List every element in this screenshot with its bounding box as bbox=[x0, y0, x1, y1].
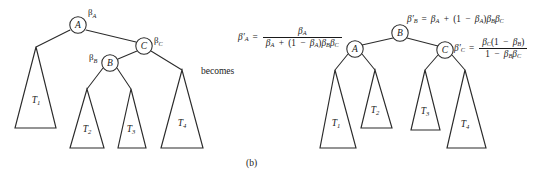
beta-c-prime-equation: β′C = βC(1 − βB) 1 − βBβC bbox=[454, 38, 528, 60]
tree-node-c-right-label: C bbox=[442, 45, 449, 55]
edge-a-to-t1-right bbox=[335, 54, 348, 70]
figure-panel-b: T1 T2 T3 T4 A βA C βC bbox=[0, 0, 552, 180]
beta-a-prime-lhs: β′A bbox=[238, 33, 249, 42]
edge-c-to-t4 bbox=[151, 51, 182, 70]
edge-a-to-c bbox=[86, 30, 136, 42]
beta-b-prime-lhs: β′B bbox=[407, 15, 418, 24]
edge-b-to-c-right bbox=[407, 38, 438, 46]
edge-c-to-t3-right bbox=[425, 55, 438, 70]
beta-b-prime-equation: β′B = βA + (1 − βA)βBβC bbox=[407, 15, 504, 24]
tree-node-a-left-label: A bbox=[74, 20, 81, 30]
subtree-triangle-t4-left bbox=[161, 70, 203, 148]
subtree-triangle-t2-left bbox=[70, 89, 104, 148]
subtree-triangle-t3-left bbox=[118, 89, 146, 148]
beta-a-prime-fraction: βA βA + (1 − βA)βBβC bbox=[263, 27, 342, 49]
tree-node-b-left-label: B bbox=[107, 58, 113, 68]
tree-node-c-left-label: C bbox=[141, 41, 148, 51]
tree-node-b-right-label: B bbox=[397, 28, 403, 38]
edge-b-to-t3 bbox=[117, 68, 131, 89]
subtree-triangle-t1-right bbox=[320, 70, 356, 148]
beta-c-prime-denominator: 1 − βBβC bbox=[482, 49, 524, 59]
beta-c-prime-lhs: β′C bbox=[454, 44, 465, 53]
beta-a-prime-denominator: βA + (1 − βA)βBβC bbox=[263, 38, 342, 48]
subtree-triangle-t3-right bbox=[411, 70, 440, 130]
edge-b-to-t2 bbox=[87, 68, 103, 89]
edge-c-to-b bbox=[118, 51, 137, 59]
equals-sign-b: = bbox=[422, 15, 427, 24]
subtree-triangle-t2-right bbox=[361, 70, 392, 128]
tree-node-a-right-label: A bbox=[351, 44, 358, 54]
edge-a-to-t1 bbox=[36, 30, 70, 47]
beta-b-label-left: βB bbox=[89, 52, 98, 64]
edge-b-to-a-right bbox=[362, 38, 393, 45]
subtree-triangle-t4-right bbox=[447, 70, 486, 148]
beta-c-prime-fraction: βC(1 − βB) 1 − βBβC bbox=[479, 38, 527, 60]
becomes-label: becomes bbox=[201, 66, 234, 76]
beta-a-label-left: βA bbox=[88, 7, 97, 19]
equals-sign-a: = bbox=[253, 33, 258, 42]
beta-c-prime-numerator: βC(1 − βB) bbox=[479, 38, 527, 48]
figure-caption: (b) bbox=[246, 158, 257, 168]
beta-a-prime-numerator: βA bbox=[295, 27, 310, 37]
beta-a-prime-equation: β′A = βA βA + (1 − βA)βBβC bbox=[238, 27, 343, 49]
equals-sign-c: = bbox=[469, 44, 474, 53]
subtree-triangle-t1-left bbox=[15, 47, 56, 128]
edge-a-to-t2-right bbox=[362, 54, 375, 70]
beta-b-prime-rhs: βA + (1 − βA)βBβC bbox=[431, 15, 504, 24]
left-tree-group: T1 T2 T3 T4 A βA C βC bbox=[15, 7, 203, 148]
beta-c-label-left: βC bbox=[154, 35, 164, 47]
